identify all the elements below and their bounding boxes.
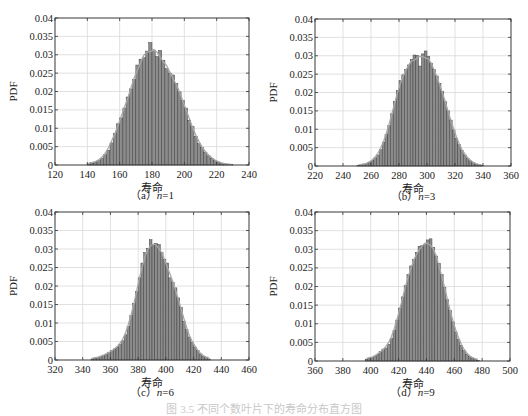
figure-caption: 图 3.5 不同个数叶片下的寿命分布直方图	[0, 400, 528, 416]
histogram-bar	[463, 155, 466, 166]
histogram-bar	[457, 339, 460, 361]
histogram-bar	[390, 339, 393, 361]
histogram-bar	[374, 158, 377, 166]
histogram-bar	[393, 330, 396, 361]
histogram-bar	[188, 337, 191, 360]
histogram-bar	[184, 108, 187, 165]
histogram-bar	[416, 55, 419, 166]
histogram-bar	[387, 344, 390, 361]
y-tick-label: 0.01	[35, 123, 53, 134]
histogram-plot: 36038040042044046048050000.0050.010.0150…	[264, 195, 528, 400]
histogram-bar	[452, 130, 455, 166]
histogram-bar	[393, 102, 396, 166]
y-tick-label: 0	[48, 160, 53, 171]
histogram-bar	[113, 349, 116, 360]
histogram-bar	[168, 73, 171, 165]
x-tick-label: 360	[503, 170, 519, 181]
histogram-bar	[175, 83, 178, 165]
y-tick-label: 0.005	[289, 337, 313, 348]
histogram-bar	[202, 356, 205, 360]
x-tick-label: 240	[335, 170, 351, 181]
y-tick-label: 0.035	[289, 32, 313, 43]
chart-panel-c: 32034036038040042044046000.0050.010.0150…	[0, 195, 264, 400]
histogram-bar	[401, 297, 404, 361]
x-tick-label: 340	[75, 364, 91, 375]
x-tick-label: 140	[79, 169, 95, 180]
histogram-bar	[374, 356, 377, 361]
y-tick-label: 0.025	[289, 69, 313, 80]
y-tick-label: 0.035	[289, 225, 313, 236]
histogram-bar	[171, 75, 174, 165]
y-tick-label: 0.005	[289, 142, 313, 153]
subcaption-label: （d）	[390, 386, 418, 398]
histogram-bar	[144, 253, 147, 360]
histogram-bar	[129, 89, 132, 165]
histogram-bar	[452, 322, 455, 361]
histogram-plot: 32034036038040042044046000.0050.010.0150…	[0, 195, 264, 400]
histogram-bar	[110, 351, 113, 360]
y-axis-title: PDF	[7, 276, 19, 296]
subcaption-d: （d）n=9	[315, 383, 510, 399]
histogram-plot: 22024026028030032034036000.0050.010.0150…	[264, 0, 528, 200]
histogram-bar	[191, 126, 194, 165]
histogram-bar	[149, 240, 152, 360]
histogram-bar	[438, 83, 441, 166]
histogram-bar	[194, 136, 197, 165]
histogram-bar	[204, 152, 207, 165]
histogram-bar	[424, 245, 427, 361]
histogram-bar	[385, 135, 388, 166]
histogram-bar	[149, 43, 152, 165]
histogram-bar	[174, 288, 177, 360]
histogram-bar	[178, 92, 181, 165]
histogram-bar	[465, 354, 468, 361]
x-tick-label: 440	[213, 364, 229, 375]
histogram-bar	[396, 91, 399, 166]
histogram-bar	[399, 308, 402, 361]
histogram-bar	[194, 347, 197, 360]
histogram-bar	[407, 275, 410, 361]
histogram-bar	[146, 51, 149, 165]
histogram-bar	[432, 247, 435, 361]
histogram-bar	[155, 243, 158, 360]
y-tick-label: 0.02	[35, 86, 53, 97]
histogram-bar	[135, 292, 138, 360]
y-tick-label: 0.015	[29, 299, 53, 310]
y-tick-label: 0	[308, 161, 313, 172]
histogram-bar	[181, 101, 184, 165]
histogram-bar	[460, 345, 463, 361]
histogram-bar	[463, 351, 466, 361]
histogram-bar	[142, 58, 145, 165]
x-tick-label: 300	[419, 170, 435, 181]
histogram-bar	[126, 97, 129, 165]
histogram-bar	[447, 111, 450, 166]
subcaption-label: （c）	[130, 386, 157, 398]
x-tick-label: 420	[391, 365, 407, 376]
x-tick-label: 480	[474, 365, 490, 376]
histogram-bars	[357, 51, 483, 166]
histogram-bar	[127, 327, 130, 360]
y-tick-label: 0.01	[295, 318, 313, 329]
histogram-bar	[191, 342, 194, 360]
histogram-bar	[396, 320, 399, 361]
histogram-bar	[180, 307, 183, 360]
histogram-bar	[133, 80, 136, 165]
histogram-bar	[427, 56, 430, 166]
histogram-bar	[385, 348, 388, 361]
y-tick-label: 0.005	[29, 336, 53, 347]
histogram-bar	[130, 316, 133, 360]
histogram-bar	[152, 50, 155, 165]
x-tick-label: 240	[241, 169, 257, 180]
x-tick-label: 340	[475, 170, 491, 181]
histogram-bar	[426, 240, 429, 361]
histogram-bar	[454, 332, 457, 361]
chart-panel-b: 22024026028030032034036000.0050.010.0150…	[264, 0, 528, 200]
y-tick-label: 0.025	[29, 68, 53, 79]
x-tick-label: 500	[502, 365, 518, 376]
histogram-bar	[455, 138, 458, 166]
y-tick-label: 0	[48, 355, 53, 366]
histogram-bar	[402, 75, 405, 166]
histogram-bar	[435, 256, 438, 361]
histogram-bar	[371, 160, 374, 166]
histogram-bar	[169, 278, 172, 360]
histogram-bar	[107, 150, 110, 165]
